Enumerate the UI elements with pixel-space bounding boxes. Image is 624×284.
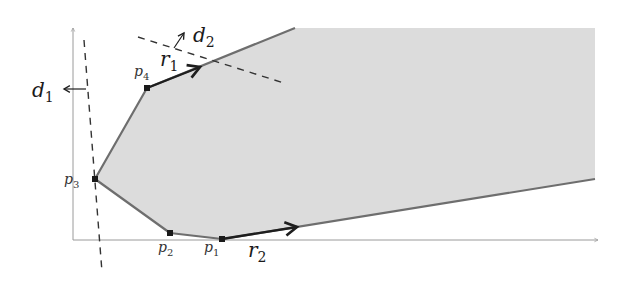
p1-label: p1: [204, 239, 219, 258]
r2-label: r2: [248, 238, 266, 265]
d2-arrow-icon: [174, 33, 184, 48]
p4-label: p4: [134, 63, 149, 82]
p2-vertex-marker: [167, 230, 173, 236]
p2-label: p2: [158, 239, 173, 258]
p3-label: p3: [64, 171, 79, 190]
d1-dashed-line: [84, 40, 102, 272]
polyhedron-diagram: d1d2 r1r2 p1p2p3p4: [0, 0, 624, 284]
p4-vertex-marker: [144, 85, 150, 91]
r1-label: r1: [160, 47, 178, 74]
d1-label: d1: [32, 78, 54, 105]
p3-vertex-marker: [92, 176, 98, 182]
p1-vertex-marker: [219, 236, 225, 242]
d2-label: d2: [193, 23, 215, 50]
